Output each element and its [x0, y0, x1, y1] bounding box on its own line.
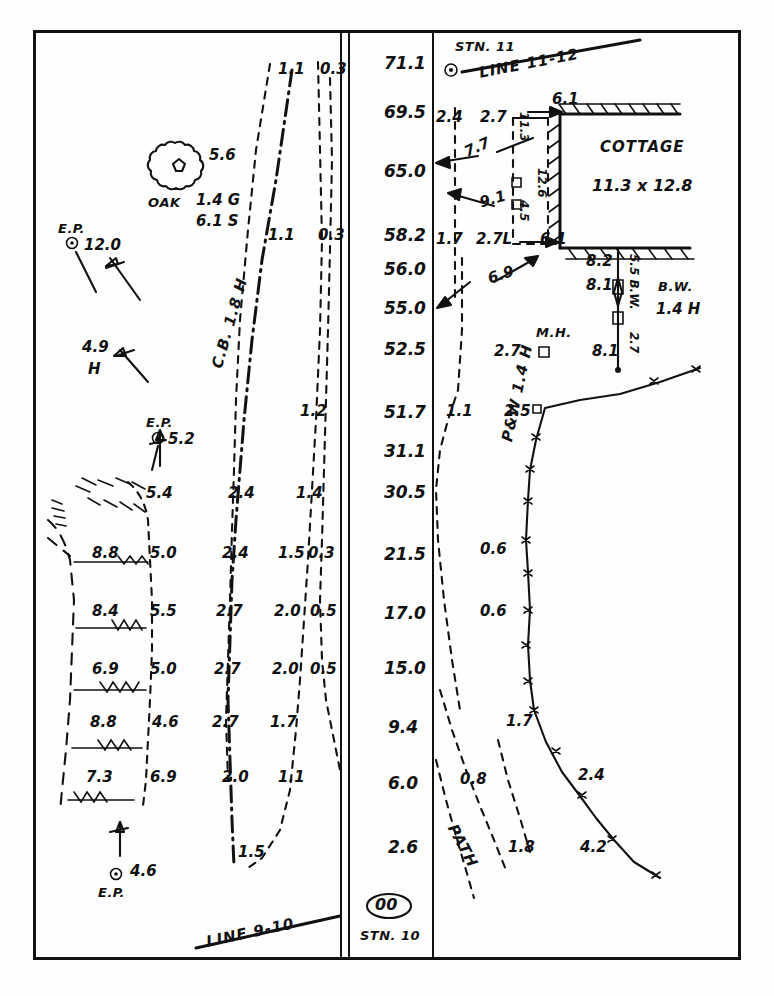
- offset-c4: 1.1: [278, 770, 305, 785]
- offset-left: 6.9: [92, 662, 119, 677]
- chainage-value: 55.0: [384, 300, 426, 317]
- survey-sketch-sheet: 71.1 69.5 65.0 58.2 56.0 55.0 52.5 51.7 …: [0, 0, 774, 996]
- offset-c2: 6.9: [150, 770, 177, 785]
- offset-c2: 5.5: [150, 604, 177, 619]
- ep-top-value: 12.0: [84, 238, 121, 253]
- offset-c5: 0.5: [310, 662, 337, 677]
- chainage-value: 69.5: [384, 104, 426, 121]
- chainage-value: 9.4: [388, 719, 418, 736]
- chainage-value: 17.0: [384, 605, 426, 622]
- tie-vert-b: 12.6: [536, 168, 548, 198]
- offset-left: 7.3: [86, 770, 113, 785]
- offset-c4: 1.2: [300, 404, 327, 419]
- bank-height-value: 4.9: [82, 340, 109, 355]
- tie-base-c: 6.1: [540, 232, 567, 247]
- chainage-value: 65.0: [384, 163, 426, 180]
- offset-c5: 0.3: [320, 62, 347, 77]
- offset-c5: 0.3: [318, 228, 345, 243]
- path-offset-b: 1.8: [508, 840, 535, 855]
- chainage-value: 30.5: [384, 484, 426, 501]
- cottage-label: COTTAGE: [600, 140, 685, 155]
- offset-c4: 2.0: [274, 604, 301, 619]
- cottage-dims: 11.3 x 12.8: [592, 178, 692, 194]
- tie-base-b: 2.7L: [476, 232, 512, 247]
- offset-c3: 2.0: [222, 770, 249, 785]
- tie-vert-a: 11.3: [518, 112, 530, 142]
- fence-offset-c: 0.6: [480, 542, 507, 557]
- chainage-value: 15.0: [384, 660, 426, 677]
- offset-left: 8.8: [90, 715, 117, 730]
- offset-c4: 1.7: [270, 715, 297, 730]
- offset-c5: 0.5: [310, 604, 337, 619]
- oak-girth: 1.4 G: [196, 193, 240, 208]
- fence-offset-f: 2.4: [578, 768, 605, 783]
- manhole-label: M.H.: [536, 326, 572, 339]
- ep-bottom-value: 4.6: [130, 864, 157, 879]
- offset-left: 8.4: [92, 604, 119, 619]
- chainage-value: 58.2: [384, 227, 426, 244]
- bw-height: 1.4 H: [656, 302, 700, 317]
- fence-offset-d: 0.6: [480, 604, 507, 619]
- offset-c4: 1.1: [278, 62, 305, 77]
- chainage-value: 21.5: [384, 546, 426, 563]
- tie-left-a: 2.4: [436, 110, 463, 125]
- path-offset-a: 0.8: [460, 772, 487, 787]
- station-10-label: STN. 10: [360, 929, 420, 942]
- offset-c5: 0.3: [308, 546, 335, 561]
- bank-height-unit: H: [88, 362, 101, 377]
- ep-bottom-label: E.P.: [98, 886, 125, 899]
- offset-c3: 2.7: [214, 662, 241, 677]
- offset-c3: 2.7: [216, 604, 243, 619]
- fence-offset-a: 1.1: [446, 404, 473, 419]
- chainage-value: 52.5: [384, 341, 426, 358]
- offset-c3: 2.4: [222, 546, 249, 561]
- offset-c4: 2.0: [272, 662, 299, 677]
- wall-tie-a: 8.2: [586, 254, 613, 269]
- tie-top: 6.1: [552, 92, 579, 107]
- oak-offset: 5.6: [209, 148, 236, 163]
- offset-c4: 1.1: [268, 228, 295, 243]
- offset-c2: 5.4: [146, 486, 173, 501]
- offset-left: 8.8: [92, 546, 119, 561]
- fence-offset-g: 4.2: [580, 840, 607, 855]
- offset-c3: 1.5: [238, 845, 265, 860]
- offset-c4: 1.5: [278, 546, 305, 561]
- tie-vert-c: 4.5: [518, 200, 530, 221]
- oak-spread: 6.1 S: [196, 214, 239, 229]
- station-11-label: STN. 11: [455, 40, 515, 53]
- ep-mid-label: E.P.: [146, 416, 173, 429]
- offset-c3: 2.4: [228, 486, 255, 501]
- offset-c2: 5.0: [150, 546, 177, 561]
- ep-mid-value: 5.2: [168, 432, 195, 447]
- ep-top-label: E.P.: [58, 222, 85, 235]
- wall-tie-b: 8.1: [586, 278, 613, 293]
- chainage-value: 31.1: [384, 443, 426, 460]
- offset-c4: 1.4: [296, 486, 323, 501]
- wall-tie-side: 5.5 B.W.: [628, 254, 640, 310]
- chainage-value: 71.1: [384, 55, 426, 72]
- offset-c2: 5.0: [150, 662, 177, 677]
- wall-tie-c: 8.1: [592, 344, 619, 359]
- wall-tie-lower: 2.7: [628, 332, 640, 353]
- offset-c2: 4.6: [152, 715, 179, 730]
- tie-left-b: 2.7: [480, 110, 507, 125]
- fence-offset-e: 1.7: [506, 714, 533, 729]
- chainage-value: 51.7: [384, 404, 426, 421]
- tie-base-a: 1.7: [436, 232, 463, 247]
- chainage-value: 6.0: [388, 775, 418, 792]
- bw-label: B.W.: [658, 280, 693, 293]
- station-10-chainage: 00: [375, 897, 397, 913]
- oak-label: OAK: [148, 196, 181, 209]
- offset-c3: 2.7: [212, 715, 239, 730]
- chainage-value: 2.6: [388, 839, 418, 856]
- chainage-value: 56.0: [384, 261, 426, 278]
